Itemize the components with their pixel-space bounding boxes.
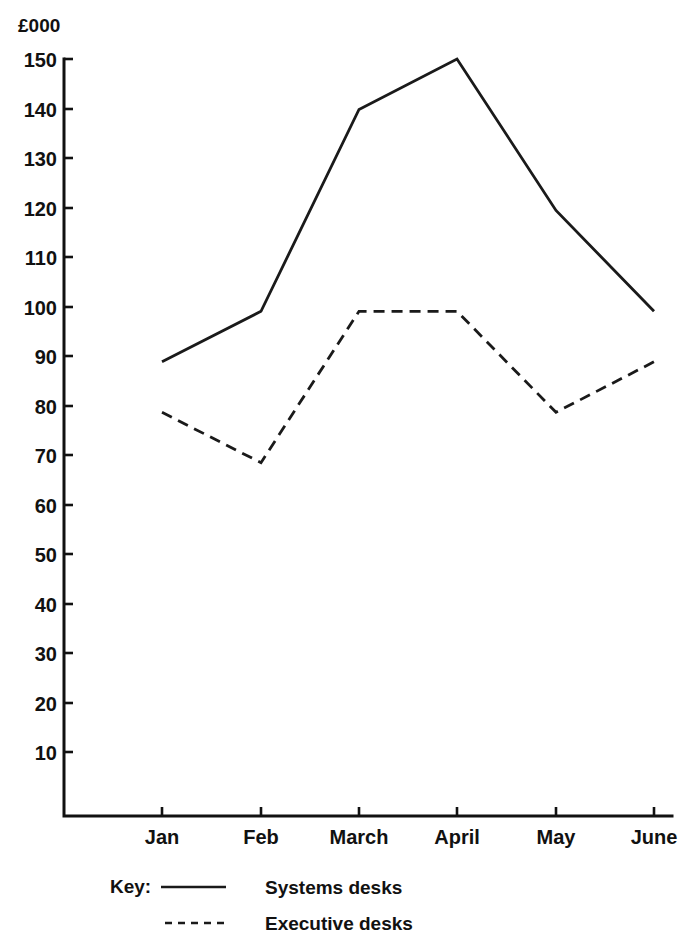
y-tick-label-110: 110: [25, 247, 57, 269]
x-tick-label-june: June: [631, 826, 678, 848]
x-tick-label-jan: Jan: [145, 826, 179, 848]
y-tick-label-70: 70: [35, 445, 57, 467]
legend-label-executive-desks: Executive desks: [265, 913, 413, 934]
y-axis-tick-labels: 150 140 130 120 110 100 90 80 70 60 50 4…: [24, 49, 57, 764]
y-tick-label-40: 40: [35, 594, 57, 616]
chart-canvas: £000 150 140 130 120 110 100 90 80 70 60…: [0, 0, 689, 942]
y-tick-label-60: 60: [35, 495, 57, 517]
x-tick-label-may: May: [537, 826, 577, 848]
y-tick-label-100: 100: [24, 297, 57, 319]
series-line-systems-desks: [162, 59, 654, 362]
y-tick-label-10: 10: [35, 742, 57, 764]
y-tick-label-130: 130: [24, 148, 57, 170]
y-tick-label-120: 120: [24, 198, 57, 220]
x-axis-tick-labels: Jan Feb March April May June: [145, 826, 678, 848]
legend-item-executive-desks: Executive desks: [165, 913, 413, 934]
y-tick-label-140: 140: [24, 99, 57, 121]
line-chart: £000 150 140 130 120 110 100 90 80 70 60…: [0, 0, 689, 942]
y-tick-label-80: 80: [35, 396, 57, 418]
y-tick-label-90: 90: [35, 346, 57, 368]
legend-item-systems-desks: Systems desks: [161, 877, 402, 898]
legend-label-systems-desks: Systems desks: [265, 877, 402, 898]
series-line-executive-desks: [162, 311, 654, 462]
x-tick-label-april: April: [434, 826, 480, 848]
x-tick-label-feb: Feb: [243, 826, 279, 848]
axis-lines: [64, 59, 672, 816]
y-tick-label-20: 20: [35, 693, 57, 715]
y-tick-label-30: 30: [35, 643, 57, 665]
legend-key-label: Key:: [110, 876, 151, 897]
y-axis-unit-label: £000: [18, 15, 60, 36]
legend: Key: Systems desks Executive desks: [110, 876, 413, 934]
y-tick-label-150: 150: [24, 49, 57, 71]
y-tick-label-50: 50: [35, 544, 57, 566]
x-tick-label-march: March: [330, 826, 389, 848]
